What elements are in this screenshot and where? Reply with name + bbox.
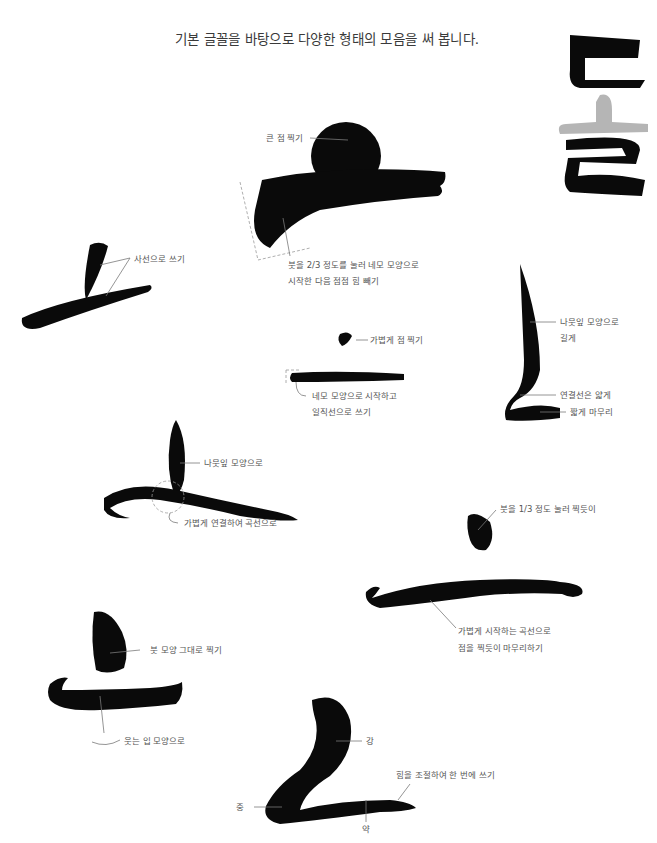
calligraphy-page: 기본 글꼴을 바탕으로 다양한 형태의 모음을 써 봅니다.: [0, 0, 657, 843]
label-weak: 약: [362, 822, 370, 837]
label-leaf-long-2: 길게: [560, 331, 576, 346]
label-leaf-long-1: 나뭇잎 모양으로: [560, 315, 619, 330]
label-diagonal: 사선으로 쓰기: [134, 252, 185, 267]
label-strong: 강: [366, 734, 374, 749]
label-light-curve-start-1: 가볍게 시작하는 곡선으로: [458, 624, 551, 639]
label-leaf: 나뭇잎 모양으로: [204, 456, 263, 471]
label-light-curve: 가볍게 연결하여 곡선으로: [184, 516, 277, 531]
label-smile: 웃는 입 모양으로: [124, 734, 185, 749]
label-light-curve-start-2: 점을 찍듯이 마무리하기: [458, 641, 543, 656]
dot-smile-stroke: [48, 611, 182, 710]
dol-glyph-icon: [559, 35, 648, 196]
label-big-dot: 큰 점 찍기: [266, 131, 303, 146]
leaf-long-stroke: [505, 264, 560, 421]
brush-stroke-illustrations: [0, 0, 657, 843]
label-brush-press-1: 붓을 2/3 정도를 눌러 네모 모양으로: [288, 258, 419, 273]
label-square-start-1: 네모 모양으로 시작하고: [312, 389, 397, 404]
label-brush-press-2: 시작한 다음 점점 힘 빼기: [288, 274, 379, 289]
diagonal-strokes: [22, 243, 152, 329]
label-one-stroke: 힘을 조절하여 한 번에 쓰기: [396, 768, 495, 783]
leaf-curve-stroke: [104, 420, 298, 521]
label-short-finish: 짧게 마무리: [570, 405, 613, 420]
strong-medium-weak-stroke: [265, 698, 416, 825]
label-third-press: 붓을 1/3 정도 눌러 찍듯이: [500, 502, 597, 517]
label-thin-link: 연결선은 얇게: [560, 388, 611, 403]
label-light-dot: 가볍게 점 찍기: [370, 333, 423, 348]
label-brush-shape: 붓 모양 그대로 찍기: [150, 643, 222, 658]
label-square-start-2: 일직선으로 쓰기: [312, 405, 371, 420]
label-medium: 중: [236, 800, 244, 815]
dot-curve-stroke: [366, 514, 583, 608]
